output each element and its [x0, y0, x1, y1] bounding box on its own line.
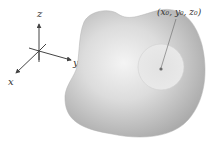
coordinate-axes: z y x: [8, 8, 79, 87]
x-axis: [16, 51, 39, 73]
x-axis-label: x: [8, 76, 14, 87]
diagram-canvas: z y x (x₀, y₀, z₀): [0, 0, 211, 144]
y-axis: [39, 51, 71, 60]
x-axis-negative: [39, 44, 46, 51]
point-label: (x₀, y₀, z₀): [157, 7, 202, 17]
z-axis-label: z: [36, 8, 43, 19]
solid-region: [65, 9, 205, 137]
y-axis-negative: [29, 48, 39, 51]
